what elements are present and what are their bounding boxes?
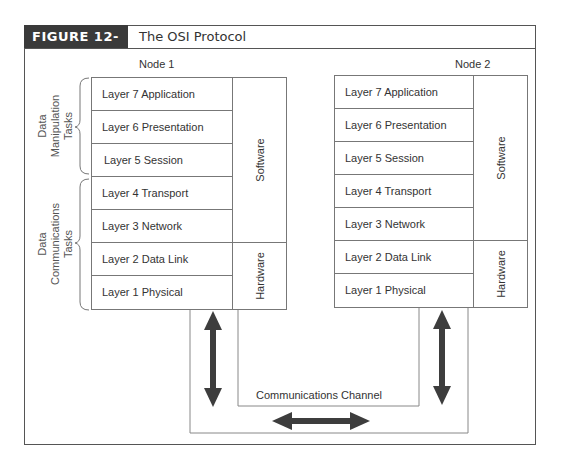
manipulation-brace-icon: [75, 78, 89, 174]
outer-channel-line: [190, 308, 468, 433]
communications-channel-label: Communications Channel: [256, 389, 382, 401]
channel-horizontal-arrow-icon: [272, 412, 370, 430]
node2-vertical-arrow-icon: [433, 310, 451, 405]
communications-brace-icon: [75, 179, 89, 310]
node1-vertical-arrow-icon: [204, 311, 222, 407]
